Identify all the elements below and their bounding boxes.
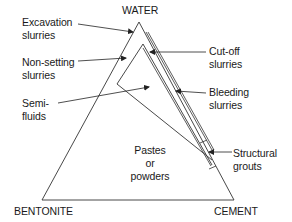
label-cut-off-slurries: Cut-off slurries — [209, 45, 242, 71]
tick-mark — [209, 166, 216, 169]
label-excavation-slurries: Excavation slurries — [22, 16, 72, 42]
vertex-bentonite: BENTONITE — [14, 205, 73, 218]
label-non-setting-slurries: Non-setting slurries — [22, 56, 75, 82]
label-bleeding-slurries: Bleeding slurries — [209, 86, 249, 112]
semi-fluids-arrow — [58, 87, 149, 103]
label-pastes-or-powders: Pastes or powders — [127, 144, 173, 183]
vertex-cement: CEMENT — [214, 205, 258, 218]
label-structural-grouts: Structural grouts — [233, 147, 277, 173]
excavation-arrow — [78, 24, 133, 32]
label-semi-fluids: Semi- fluids — [22, 97, 49, 123]
bleeding-arrow — [176, 91, 206, 93]
vertex-water: WATER — [122, 4, 158, 17]
